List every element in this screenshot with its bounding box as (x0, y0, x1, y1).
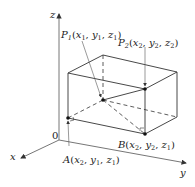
x-axis (21, 140, 59, 158)
point-p2 (143, 87, 147, 91)
leader-lines (68, 41, 145, 146)
points (66, 87, 147, 136)
diagram-canvas: z x y 0 P1(x1, y1, z1) P2(x2, y2, z2) B(… (0, 0, 195, 187)
z-axis-label: z (49, 9, 56, 20)
x-axis-label: x (10, 151, 16, 162)
origin-label: 0 (52, 130, 58, 141)
p1-p2-segment (103, 89, 145, 100)
p1-label: P1(x1, y1, z1) (60, 29, 122, 42)
y-axis-label: y (179, 167, 186, 178)
point-a (66, 116, 70, 120)
point-b (143, 132, 147, 136)
p2-label: P2(x2, y2, z2) (117, 37, 179, 50)
b-label: B(x2, y2, z1) (117, 139, 175, 152)
a-label: A(x2, y1, z1) (62, 154, 120, 167)
box-edges (68, 55, 177, 134)
point-p1 (101, 98, 105, 102)
